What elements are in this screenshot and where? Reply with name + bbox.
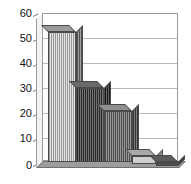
bar-front-3	[104, 111, 132, 162]
bar-front-1	[48, 32, 76, 162]
bar-group-1	[48, 0, 76, 184]
bar-group-2	[76, 0, 104, 184]
bar-chart: 60 50 40 30 20 10 0	[0, 0, 191, 184]
bar-front-5	[156, 162, 178, 166]
bar-side-5	[178, 155, 185, 166]
bars-layer	[0, 0, 191, 184]
bar-front-2	[76, 88, 104, 162]
bar-top-3	[97, 104, 132, 111]
bar-group-3	[104, 0, 132, 184]
bar-top-1	[41, 25, 76, 32]
bar-top-2	[69, 81, 104, 88]
bar-group-5	[156, 0, 178, 184]
